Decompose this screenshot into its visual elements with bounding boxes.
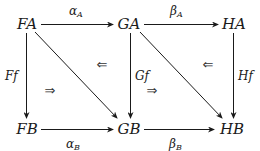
arrow-diagonal-FA-GB xyxy=(35,32,117,118)
label-Gf: Gf xyxy=(135,69,152,83)
commutative-diagram: FA GA HA FB GB HB αA βA αB βB Ff Gf Hf ⇐… xyxy=(0,0,260,151)
arrow-diagonal-GA-HB xyxy=(140,32,222,118)
label-alpha-A: αA xyxy=(69,4,83,19)
two-cell-right-arrow-2: ⇒ xyxy=(147,83,158,98)
label-beta-B: βB xyxy=(168,137,182,151)
node-GA: GA xyxy=(118,15,141,33)
two-cell-left-arrow-1: ⇐ xyxy=(97,57,108,72)
label-beta-A: βA xyxy=(169,4,183,19)
node-FB: FB xyxy=(15,120,37,138)
label-alpha-B: αB xyxy=(66,137,80,151)
label-Hf: Hf xyxy=(237,69,255,83)
two-cell-right-arrow-1: ⇒ xyxy=(45,83,56,98)
two-cell-left-arrow-2: ⇐ xyxy=(203,57,214,72)
label-Ff: Ff xyxy=(4,69,20,83)
node-GB: GB xyxy=(117,120,140,138)
node-HB: HB xyxy=(219,120,244,138)
node-FA: FA xyxy=(16,15,37,33)
node-HA: HA xyxy=(221,15,246,33)
